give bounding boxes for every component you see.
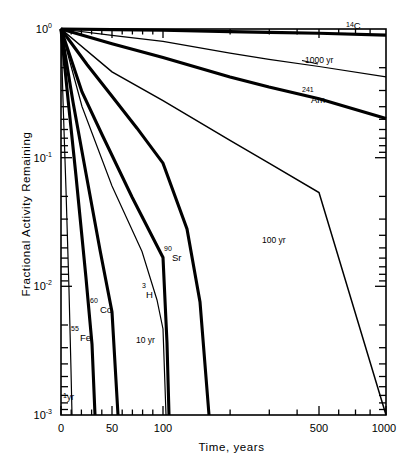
curve-sr90 — [61, 29, 209, 415]
curve-label-1yr-base: yr — [67, 392, 74, 402]
y-tick-exp-1e-2: -2 — [46, 279, 52, 286]
decay-chart-svg: 14C 1000 yr 241 Am 100 yr 90 Sr 3 H 10 y… — [0, 0, 417, 467]
y-tick-label-1e-1: 10-1 — [34, 151, 53, 164]
curve-c14 — [61, 29, 386, 35]
plot-frame — [61, 29, 386, 415]
curve-label-1yr: 1yr — [63, 392, 74, 402]
x-axis-tick-labels: 0 50 100 500 1000 — [58, 422, 396, 434]
x-axis-ticks-bottom — [61, 406, 386, 415]
x-tick-label-500: 500 — [310, 422, 328, 434]
y-tick-exp-1e-3: -3 — [46, 408, 52, 415]
curve-label-sr90-base: Sr — [172, 252, 182, 263]
curve-label-h3: 3 — [142, 282, 146, 289]
y-axis-tick-labels: 100 10-1 10-2 10-3 — [34, 22, 53, 421]
y-tick-label-1e0: 100 — [36, 22, 52, 35]
curve-label-c14-sup: 14 — [346, 21, 354, 28]
curve-label-sr90: 90 — [164, 245, 172, 252]
y-tick-exp-1e0: 0 — [48, 22, 52, 29]
y-tick-exp-1e-1: -1 — [46, 151, 52, 158]
curve-label-h3-sup: 3 — [142, 282, 146, 289]
decay-curves — [61, 29, 386, 415]
curve-100yr — [61, 29, 386, 415]
curve-label-am241-sup: 241 — [302, 86, 314, 93]
figure-canvas: 14C 1000 yr 241 Am 100 yr 90 Sr 3 H 10 y… — [0, 0, 417, 467]
y-axis-title: Fractional Activity Remaining — [20, 114, 32, 314]
curve-label-fe55: 55 — [71, 325, 79, 332]
curve-label-fe55-sup: 55 — [71, 325, 79, 332]
curve-label-am241: 241 — [302, 86, 314, 93]
x-axis-title: Time, years — [0, 441, 417, 453]
curve-label-am241-base: Am — [311, 94, 325, 105]
curve-fe55 — [61, 29, 95, 415]
curve-label-sr90-sup: 90 — [164, 245, 172, 252]
curve-am241 — [61, 29, 386, 119]
curve-label-10yr: 10 yr — [136, 335, 155, 345]
curve-label-co60-base: Co — [100, 304, 112, 315]
x-tick-label-100: 100 — [154, 422, 172, 434]
curve-label-1000yr: 1000 yr — [305, 55, 334, 65]
x-tick-label-0: 0 — [58, 422, 64, 434]
x-tick-label-50: 50 — [106, 422, 118, 434]
curve-co60 — [61, 29, 118, 415]
curve-label-group: 14C 1000 yr 241 Am 100 yr 90 Sr 3 H 10 y… — [63, 20, 361, 402]
curve-label-c14-base: C — [354, 20, 361, 31]
curve-label-fe55-base: Fe — [80, 332, 91, 343]
y-tick-label-1e-3: 10-3 — [34, 408, 53, 421]
curve-label-h3-base: H — [146, 289, 153, 300]
y-tick-label-1e-2: 10-2 — [34, 279, 53, 292]
x-tick-label-1000: 1000 — [372, 422, 396, 434]
curve-label-co60: 60 — [90, 297, 98, 304]
curve-label-co60-sup: 60 — [90, 297, 98, 304]
curve-label-100yr: 100 yr — [262, 235, 286, 245]
